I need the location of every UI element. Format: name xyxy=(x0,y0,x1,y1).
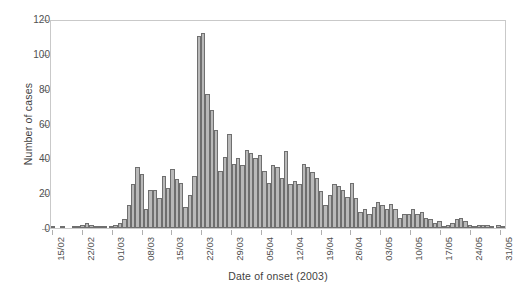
bar xyxy=(490,226,494,228)
x-tick-mark xyxy=(500,230,501,235)
x-tick-mark xyxy=(171,230,172,235)
y-tick-label: 40 xyxy=(14,154,50,164)
x-tick-label: 01/03 xyxy=(116,237,126,261)
x-tick-label: 03/05 xyxy=(384,237,394,261)
x-tick-mark xyxy=(231,230,232,235)
x-tick-mark xyxy=(470,230,471,235)
y-axis: Number of cases 020406080100120 xyxy=(0,0,50,294)
x-tick-label: 22/03 xyxy=(205,237,215,261)
bar xyxy=(60,226,64,228)
y-tick-label: 20 xyxy=(14,189,50,199)
x-tick-mark xyxy=(380,230,381,235)
x-tick-mark xyxy=(410,230,411,235)
x-axis-title: Date of onset (2003) xyxy=(50,270,506,282)
histogram-figure: Number of cases 020406080100120 15/0222/… xyxy=(0,0,520,294)
x-tick-label: 05/04 xyxy=(265,237,275,261)
x-tick-label: 10/05 xyxy=(414,237,424,261)
x-tick-mark xyxy=(52,230,53,235)
plot-area xyxy=(50,20,506,229)
x-tick-label: 22/02 xyxy=(86,237,96,261)
y-tick-label: 80 xyxy=(14,85,50,95)
x-tick-mark xyxy=(112,230,113,235)
x-tick-mark xyxy=(440,230,441,235)
x-tick-label: 24/05 xyxy=(474,237,484,261)
x-tick-mark xyxy=(291,230,292,235)
x-tick-mark xyxy=(350,230,351,235)
x-tick-mark xyxy=(201,230,202,235)
bar xyxy=(51,226,55,228)
x-tick-label: 08/03 xyxy=(146,237,156,261)
y-tick-label: 0 xyxy=(14,224,50,234)
x-tick-label: 26/04 xyxy=(354,237,364,261)
figure-caption-strip xyxy=(0,288,520,294)
bar xyxy=(501,226,505,228)
x-tick-label: 19/04 xyxy=(325,237,335,261)
x-tick-mark xyxy=(142,230,143,235)
y-tick-label: 120 xyxy=(14,15,50,25)
x-tick-mark xyxy=(82,230,83,235)
y-tick-label: 60 xyxy=(14,120,50,130)
x-tick-label: 15/03 xyxy=(175,237,185,261)
x-tick-label: 17/05 xyxy=(444,237,454,261)
x-tick-mark xyxy=(261,230,262,235)
y-tick-label: 100 xyxy=(14,50,50,60)
x-tick-label: 12/04 xyxy=(295,237,305,261)
bar xyxy=(102,226,106,228)
x-tick-label: 31/05 xyxy=(504,237,514,261)
bar-series xyxy=(51,21,505,228)
x-tick-label: 15/02 xyxy=(56,237,66,261)
x-tick-mark xyxy=(321,230,322,235)
x-tick-label: 29/03 xyxy=(235,237,245,261)
